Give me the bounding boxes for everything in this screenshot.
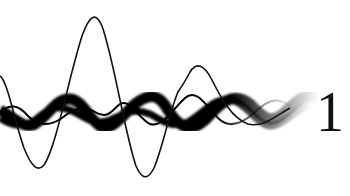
waves-illustration (0, 0, 350, 196)
wave-graphic: 1 (0, 0, 350, 196)
digit-label: 1 (316, 84, 344, 140)
